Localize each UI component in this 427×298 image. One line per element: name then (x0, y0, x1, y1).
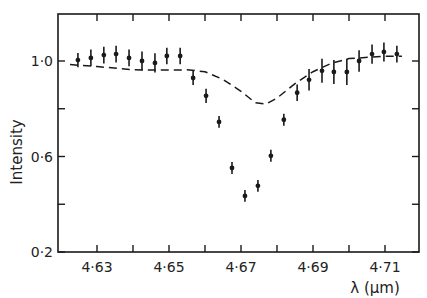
data-points (76, 42, 400, 201)
y-tick-label: 1·0 (31, 53, 53, 69)
data-point (268, 150, 273, 162)
data-point (357, 50, 362, 71)
data-point (178, 48, 183, 65)
data-point (88, 50, 93, 67)
data-point (320, 59, 325, 83)
data-point (281, 114, 286, 126)
plot-border (58, 14, 419, 252)
y-axis-ticks: 0·20·61·0 (31, 53, 419, 260)
data-point (204, 89, 209, 103)
y-tick-label: 0·6 (31, 149, 53, 165)
x-tick-label: 4·63 (81, 259, 112, 275)
data-point (230, 162, 235, 174)
x-tick-label: 4·69 (297, 259, 328, 275)
data-point (256, 180, 261, 192)
data-point (217, 116, 222, 128)
plot-frame (58, 14, 419, 252)
y-axis-label: Intensity (8, 119, 26, 184)
data-point (114, 46, 119, 63)
data-point (370, 45, 375, 64)
data-point (331, 60, 336, 84)
y-tick-label: 0·2 (31, 244, 53, 260)
data-point (243, 190, 248, 202)
data-point (382, 42, 387, 61)
data-point (101, 47, 106, 64)
data-point (140, 51, 145, 70)
data-point (127, 50, 132, 67)
data-point (295, 84, 300, 101)
data-point (191, 71, 196, 85)
x-axis-label: λ (μm) (350, 279, 400, 297)
data-point (344, 59, 349, 85)
x-tick-label: 4·67 (225, 259, 256, 275)
x-tick-label: 4·65 (153, 259, 184, 275)
chart: 4·634·654·674·694·71 0·20·61·0 λ (μm) In… (0, 0, 427, 298)
model-curve (70, 56, 402, 104)
x-tick-label: 4·71 (369, 259, 400, 275)
data-point (164, 48, 169, 65)
data-point (394, 46, 399, 63)
